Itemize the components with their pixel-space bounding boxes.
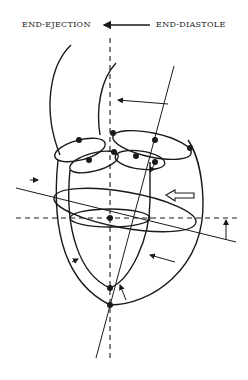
outer-contour-diastole bbox=[56, 140, 203, 305]
landmark-dots bbox=[76, 130, 193, 308]
valve-ring-4 bbox=[110, 125, 193, 165]
wall-arrow-3 bbox=[72, 259, 78, 262]
rotation-arrow bbox=[118, 100, 168, 104]
heart-ventricle-diagram bbox=[0, 0, 248, 380]
wall-arrow-2 bbox=[150, 255, 175, 262]
tilted-long-axis bbox=[96, 66, 174, 358]
valve-ring-3 bbox=[114, 148, 166, 173]
apex-arrow bbox=[120, 285, 126, 300]
hollow-arrow-icon bbox=[166, 190, 194, 201]
vessel-left bbox=[50, 45, 71, 155]
vessel-right bbox=[99, 63, 116, 135]
